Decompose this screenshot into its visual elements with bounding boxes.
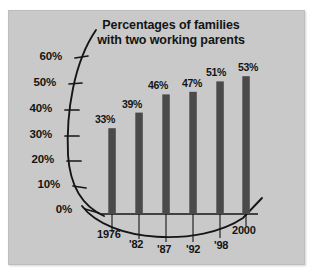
x-axis-label-92: '92 xyxy=(186,243,200,255)
bar-98 xyxy=(216,81,224,214)
bar-2000 xyxy=(242,76,250,214)
chart-title-line-2: with two working parents xyxy=(76,33,266,48)
y-axis-label-0: 0% xyxy=(26,203,72,215)
y-axis-ticks xyxy=(65,56,99,213)
bar-value-label-82: 39% xyxy=(122,98,142,110)
x-axis-label-98: '98 xyxy=(214,239,228,251)
bar-1976 xyxy=(108,128,116,214)
x-axis-label-1976: 1976 xyxy=(97,228,121,240)
chart-title: Percentages of families with two working… xyxy=(76,18,266,47)
bar-value-label-87: 46% xyxy=(148,79,168,91)
y-axis-label-20: 20% xyxy=(8,153,54,165)
chart-title-line-1: Percentages of families xyxy=(76,18,266,33)
x-axis-label-2000: 2000 xyxy=(232,224,256,236)
bar-value-label-92: 47% xyxy=(182,77,202,89)
y-axis-label-50: 50% xyxy=(10,76,56,88)
bar-92 xyxy=(189,92,197,214)
y-axis-label-40: 40% xyxy=(6,102,52,114)
x-axis-label-82: '82 xyxy=(129,238,143,250)
y-axis-label-30: 30% xyxy=(6,128,52,140)
x-axis-label-87: '87 xyxy=(157,243,171,255)
chart-figure: Percentages of families with two working… xyxy=(0,0,318,275)
y-axis-label-60: 60% xyxy=(16,50,62,62)
bar-value-label-1976: 33% xyxy=(95,113,115,125)
y-axis-label-10: 10% xyxy=(14,178,60,190)
bar-value-label-98: 51% xyxy=(206,66,226,78)
bar-87 xyxy=(162,94,170,214)
bar-82 xyxy=(135,113,143,214)
bar-value-label-2000: 53% xyxy=(238,61,258,73)
